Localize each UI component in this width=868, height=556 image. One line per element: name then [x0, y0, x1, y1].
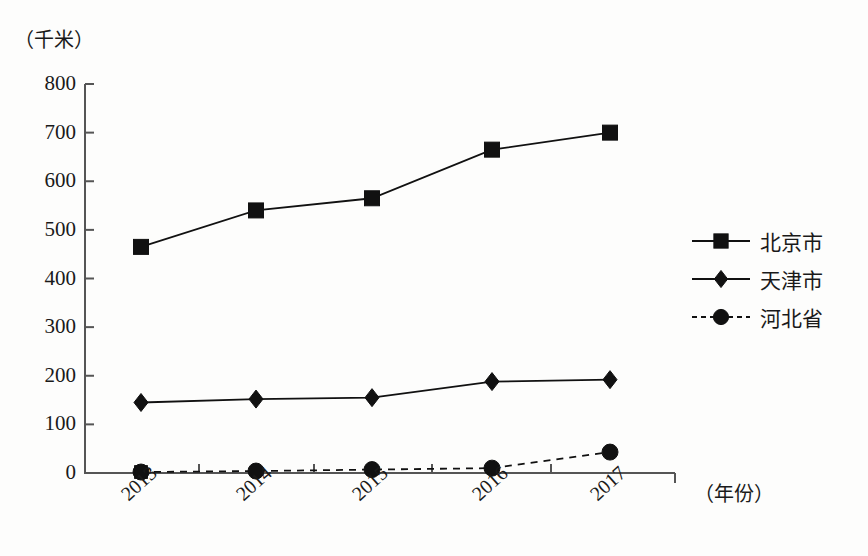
square-marker: [714, 234, 728, 248]
legend-label: 天津市: [752, 264, 823, 294]
chart-page: （千米） 0100200300400500600700800 201320142…: [0, 0, 868, 556]
circle-marker: [713, 309, 728, 324]
x-axis-tick-label: 2014: [232, 462, 275, 504]
legend-item-0[interactable]: 北京市: [690, 222, 866, 260]
legend-label: 北京市: [752, 226, 823, 256]
x-axis-tick-label: 2016: [468, 462, 511, 504]
x-axis-tick-label: 2013: [117, 462, 160, 504]
legend-item-1[interactable]: 天津市: [690, 260, 866, 298]
legend-item-2[interactable]: 河北省: [690, 298, 866, 336]
chart-legend: 北京市天津市河北省: [690, 222, 866, 336]
legend-label: 河北省: [752, 302, 823, 332]
x-axis-tick-label: 2017: [586, 462, 629, 504]
x-axis-tick-label: 2015: [348, 462, 391, 504]
legend-sample: [690, 269, 752, 289]
diamond-marker: [714, 270, 727, 287]
legend-sample: [690, 231, 752, 251]
x-axis-unit-label: （年份）: [694, 478, 774, 507]
legend-sample: [690, 307, 752, 327]
